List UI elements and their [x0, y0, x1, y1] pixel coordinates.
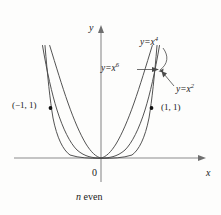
curve-label-x6-exponent: 6 — [116, 61, 119, 68]
point-label-left: (−1, 1) — [12, 101, 37, 110]
origin-label: 0 — [92, 168, 97, 178]
curve-label-x2-exponent: 2 — [191, 82, 194, 89]
power-functions-figure: y x y=x4 y=x6 y=x2 (−1, 1) (1, 1) 0 n ev… — [0, 0, 221, 215]
y-axis-label: y — [89, 23, 93, 33]
figure-caption: n even — [76, 192, 102, 202]
leader-line-x2 — [162, 71, 175, 86]
x-axis-label: x — [206, 168, 210, 178]
curve-label-x-sixth: y=x6 — [101, 62, 119, 74]
point-marker-left — [49, 106, 53, 110]
point-label-right: (1, 1) — [161, 103, 181, 112]
curve-label-x-squared: y=x2 — [176, 83, 194, 95]
point-marker-right — [150, 106, 154, 110]
leader-line-x4 — [160, 48, 167, 70]
curve-label-x-fourth: y=x4 — [140, 36, 158, 48]
caption-text: even — [81, 191, 102, 202]
curve-label-x4-exponent: 4 — [155, 35, 158, 42]
